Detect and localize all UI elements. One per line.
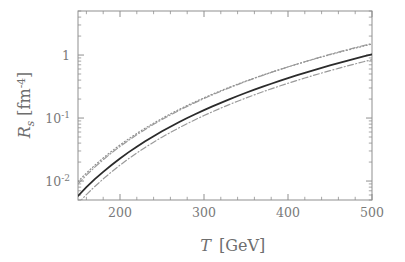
x-tick-label: 400 — [276, 205, 300, 220]
y-axis-label-unit-exponent: -4 — [15, 78, 27, 89]
x-axis-label-symbol: T — [200, 236, 212, 255]
svg-text:1: 1 — [62, 48, 70, 63]
x-axis-label: T [GeV] — [200, 236, 265, 255]
y-tick-label: 1 — [62, 48, 70, 63]
y-axis-label-symbol: R — [15, 126, 34, 139]
chart-figure: 200300400500 110-110-2 T [GeV] Rs [fm-4] — [0, 0, 405, 262]
y-axis-label-unit-open: [fm — [15, 88, 34, 120]
x-tick-label: 300 — [192, 205, 216, 220]
figure-background — [0, 0, 405, 262]
x-tick-label: 200 — [108, 205, 132, 220]
x-axis-label-unit: [GeV] — [219, 236, 265, 255]
y-axis-label-unit-close: ] — [15, 72, 34, 78]
x-tick-label: 500 — [360, 205, 384, 220]
